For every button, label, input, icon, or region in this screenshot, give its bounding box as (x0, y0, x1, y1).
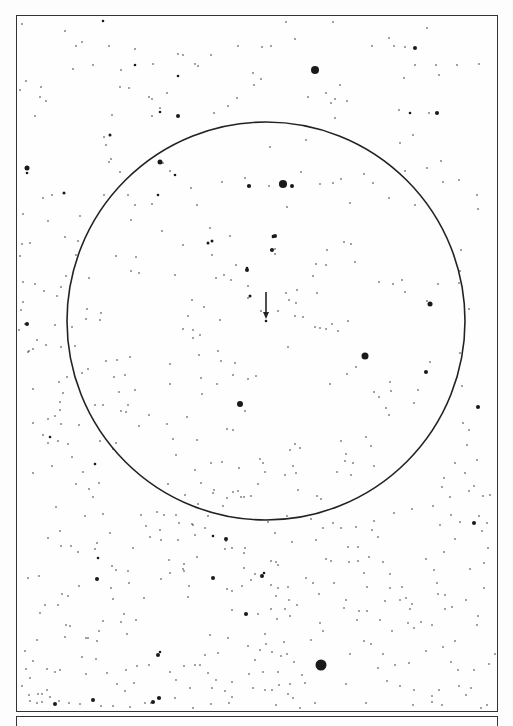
star (124, 374, 126, 376)
star (330, 560, 332, 562)
star (297, 489, 299, 491)
star (84, 515, 86, 517)
star (320, 498, 322, 500)
star (124, 690, 126, 692)
star (226, 588, 228, 590)
star (43, 290, 45, 292)
star (69, 625, 71, 627)
star (365, 436, 367, 438)
star (312, 582, 314, 584)
star (77, 551, 79, 553)
star (59, 401, 61, 403)
star (388, 414, 390, 416)
star (357, 560, 359, 562)
star (167, 483, 169, 485)
star (389, 587, 391, 589)
star (473, 669, 475, 671)
star (192, 329, 194, 331)
star (226, 497, 228, 499)
star (254, 659, 256, 661)
star (332, 522, 334, 524)
star (378, 396, 380, 398)
star (79, 703, 81, 705)
star (42, 434, 44, 436)
star (247, 645, 249, 647)
star (127, 404, 129, 406)
star (469, 568, 471, 570)
star (355, 526, 357, 528)
star (373, 391, 375, 393)
star (60, 545, 62, 547)
star (337, 330, 339, 332)
bright-star (224, 537, 228, 541)
star (220, 360, 222, 362)
star (261, 46, 263, 48)
star (238, 467, 240, 469)
star (473, 485, 475, 487)
star (310, 639, 312, 641)
star (87, 368, 89, 370)
star (275, 561, 277, 563)
star (316, 292, 318, 294)
star (197, 503, 199, 505)
star (64, 30, 66, 32)
star (135, 256, 137, 258)
star (263, 572, 266, 575)
star (45, 344, 47, 346)
star (98, 482, 100, 484)
star (190, 187, 192, 189)
star (437, 593, 439, 595)
star (385, 407, 387, 409)
star (487, 547, 489, 549)
star (325, 328, 327, 330)
star (51, 465, 53, 467)
star (301, 674, 303, 676)
star (368, 556, 370, 558)
star (262, 462, 264, 464)
star (379, 619, 381, 621)
star (294, 443, 296, 445)
star (115, 569, 117, 571)
star (119, 171, 121, 173)
star (270, 608, 272, 610)
star (82, 471, 84, 473)
star (257, 613, 259, 615)
star (169, 572, 171, 574)
star (85, 637, 87, 639)
star (331, 323, 333, 325)
star (64, 236, 66, 238)
star (444, 594, 446, 596)
star (127, 570, 129, 572)
star (287, 693, 289, 695)
star (36, 702, 38, 704)
star (160, 578, 162, 580)
star (200, 482, 202, 484)
star (72, 68, 74, 70)
star (75, 45, 77, 47)
star (99, 440, 101, 442)
star (275, 704, 277, 706)
star (192, 524, 194, 526)
star (450, 514, 452, 516)
star (98, 630, 100, 632)
star (29, 677, 31, 679)
star (450, 661, 452, 663)
star (45, 100, 47, 102)
star (169, 363, 171, 365)
star (237, 490, 239, 492)
star (389, 381, 391, 383)
star (196, 204, 198, 206)
star (462, 422, 464, 424)
star (325, 92, 327, 94)
star (116, 359, 118, 361)
bright-star (25, 166, 30, 171)
star (94, 404, 96, 406)
star (81, 372, 83, 374)
star (204, 527, 206, 529)
star (38, 575, 40, 577)
star (378, 281, 380, 283)
star (312, 275, 314, 277)
star (169, 383, 171, 385)
star (227, 105, 229, 107)
star (108, 45, 110, 47)
